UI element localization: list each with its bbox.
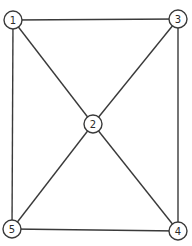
node-5: 5 (3, 220, 21, 238)
edge-1-5 (12, 20, 13, 229)
node-label: 4 (175, 226, 181, 237)
node-1: 1 (4, 11, 22, 29)
node-label: 5 (9, 224, 15, 235)
edge-3-2 (93, 19, 178, 124)
edge-1-2 (13, 20, 93, 124)
node-2: 2 (84, 115, 102, 133)
edge-5-4 (12, 229, 178, 231)
node-3: 3 (169, 10, 187, 28)
node-label: 1 (10, 15, 16, 26)
edge-1-3 (13, 19, 178, 20)
edge-4-2 (93, 124, 178, 231)
node-4: 4 (169, 222, 187, 240)
node-label: 3 (175, 14, 181, 25)
node-label: 2 (90, 119, 96, 130)
edge-5-2 (12, 124, 93, 229)
graph-diagram: 12345 (0, 0, 192, 246)
